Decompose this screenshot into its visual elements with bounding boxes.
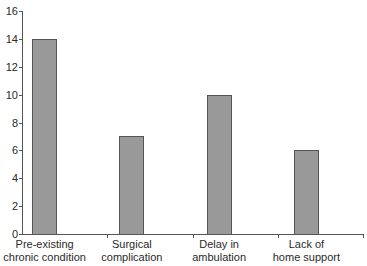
x-category-label-line: complication xyxy=(82,251,182,264)
x-category-label-line: Pre-existing xyxy=(0,238,95,251)
x-category-label: Pre-existingchronic condition xyxy=(0,238,95,264)
y-tick-mark xyxy=(19,95,23,96)
x-category-label: Surgicalcomplication xyxy=(82,238,182,264)
bar-3 xyxy=(294,150,319,235)
y-tick-mark xyxy=(19,11,23,12)
y-tick-label: 6 xyxy=(0,144,18,156)
y-tick-label: 8 xyxy=(0,117,18,129)
bar-chart: 0246810121416 Pre-existingchronic condit… xyxy=(0,0,367,266)
x-category-label: Delay inambulation xyxy=(169,238,269,264)
x-category-label-line: Surgical xyxy=(82,238,182,251)
y-tick-mark xyxy=(19,206,23,207)
x-category-label-line: Delay in xyxy=(169,238,269,251)
bar-2 xyxy=(207,95,232,235)
y-tick-mark xyxy=(19,178,23,179)
y-tick-mark xyxy=(19,123,23,124)
y-tick-label: 14 xyxy=(0,33,18,45)
x-tick-mark xyxy=(363,234,364,238)
y-tick-label: 2 xyxy=(0,200,18,212)
y-tick-mark xyxy=(19,39,23,40)
y-tick-mark xyxy=(19,150,23,151)
x-category-label-line: Lack of xyxy=(256,238,356,251)
y-tick-mark xyxy=(19,234,23,235)
bar-0 xyxy=(32,39,57,235)
bar-1 xyxy=(119,136,144,235)
x-category-label-line: chronic condition xyxy=(0,251,95,264)
y-tick-label: 16 xyxy=(0,5,18,17)
x-category-label: Lack ofhome support xyxy=(256,238,356,264)
y-tick-label: 4 xyxy=(0,172,18,184)
x-category-label-line: ambulation xyxy=(169,251,269,264)
y-tick-mark xyxy=(19,67,23,68)
y-tick-label: 10 xyxy=(0,89,18,101)
y-tick-label: 12 xyxy=(0,61,18,73)
x-category-label-line: home support xyxy=(256,251,356,264)
